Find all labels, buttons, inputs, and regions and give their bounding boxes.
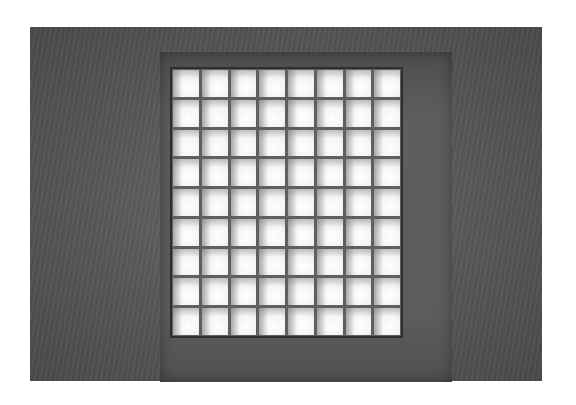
- grid-cell: [374, 219, 400, 246]
- grid-cell: [173, 159, 199, 186]
- grid-cell: [173, 70, 199, 97]
- grid-cell: [259, 189, 285, 216]
- grid-cell: [231, 249, 257, 276]
- grid-cell: [173, 189, 199, 216]
- grid-cell: [317, 100, 343, 127]
- grid-cell: [346, 308, 372, 335]
- grid-cell: [173, 130, 199, 157]
- grid-cell: [259, 249, 285, 276]
- grid-cell: [231, 189, 257, 216]
- grid-cell: [374, 130, 400, 157]
- grid-cell: [202, 130, 228, 157]
- grid-cell: [374, 249, 400, 276]
- grid-cell: [288, 219, 314, 246]
- grid-cell: [288, 278, 314, 305]
- grid-cell: [374, 278, 400, 305]
- grid-cell: [346, 278, 372, 305]
- grid-cell: [288, 308, 314, 335]
- grid-cell: [202, 249, 228, 276]
- photo: [30, 27, 542, 381]
- grid-cell: [173, 278, 199, 305]
- grid-cell: [346, 159, 372, 186]
- grid-cell: [288, 189, 314, 216]
- grid-cell: [231, 70, 257, 97]
- grid-cell: [259, 100, 285, 127]
- grid-cell: [173, 219, 199, 246]
- grid-cell: [317, 130, 343, 157]
- grid-cell: [259, 130, 285, 157]
- grid-cell: [231, 130, 257, 157]
- grid-cell: [259, 219, 285, 246]
- grid-cell: [173, 308, 199, 335]
- grid-cell: [288, 100, 314, 127]
- grid-cell: [288, 130, 314, 157]
- grid-cell: [346, 219, 372, 246]
- grid-cell: [374, 100, 400, 127]
- grid-cell: [259, 159, 285, 186]
- grid-cell: [202, 308, 228, 335]
- grid-cell: [259, 308, 285, 335]
- grid-cell: [346, 189, 372, 216]
- grid-cell: [346, 100, 372, 127]
- grid-cell: [173, 249, 199, 276]
- grid-cell: [346, 249, 372, 276]
- grid-cell: [231, 278, 257, 305]
- grid-cell: [259, 278, 285, 305]
- grid-cell: [202, 159, 228, 186]
- grid-cell: [202, 100, 228, 127]
- grid-cell: [317, 189, 343, 216]
- grid-cell: [317, 278, 343, 305]
- grid-cell: [288, 70, 314, 97]
- grid-cell: [317, 219, 343, 246]
- grid-cell: [202, 70, 228, 97]
- grid-cell: [231, 159, 257, 186]
- grid-cell: [202, 219, 228, 246]
- grid-cell: [202, 278, 228, 305]
- grid-cell: [374, 70, 400, 97]
- grid-cell: [317, 249, 343, 276]
- grid-cell: [231, 308, 257, 335]
- grid-cell: [288, 249, 314, 276]
- grid-cell: [173, 100, 199, 127]
- grid-cell: [288, 159, 314, 186]
- grid-cell: [259, 70, 285, 97]
- grid-cell: [317, 70, 343, 97]
- grid-cell: [374, 308, 400, 335]
- grid-cell: [202, 189, 228, 216]
- grid-cell: [346, 70, 372, 97]
- grid-cell: [374, 189, 400, 216]
- grid-cell: [231, 100, 257, 127]
- grid-cell: [317, 159, 343, 186]
- grid-cell: [317, 308, 343, 335]
- grid-cell: [231, 219, 257, 246]
- grid-cell: [374, 159, 400, 186]
- grid-cell: [346, 130, 372, 157]
- skylight-grid: [170, 67, 403, 338]
